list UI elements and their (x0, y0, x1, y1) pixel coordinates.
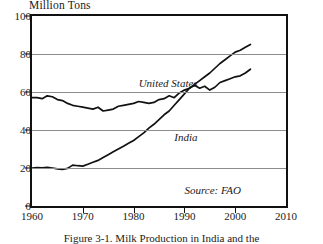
gridline-40 (32, 130, 286, 131)
gridline-20 (32, 168, 286, 169)
series-label-united-states: United States (139, 77, 198, 89)
x-tick-mark-1970 (83, 208, 84, 213)
gridline-60 (32, 92, 286, 93)
plot-inner: United StatesIndia Source: FAO (32, 16, 286, 206)
y-axis-title: Million Tons (29, 0, 91, 11)
x-tick-label-2010: 2010 (275, 210, 297, 222)
plot-area: United StatesIndia Source: FAO (30, 14, 288, 208)
x-tick-mark-1990 (184, 208, 185, 213)
x-tick-mark-2000 (235, 208, 236, 213)
series-line-united-states (32, 69, 250, 111)
figure-caption: Figure 3-1. Milk Production in India and… (0, 232, 323, 244)
series-label-india: India (174, 131, 197, 143)
source-note: Source: FAO (184, 184, 241, 196)
x-tick-label-1960: 1960 (21, 210, 43, 222)
x-tick-mark-1980 (134, 208, 135, 213)
series-lines (32, 16, 286, 206)
gridline-80 (32, 54, 286, 55)
series-line-india (32, 45, 250, 170)
